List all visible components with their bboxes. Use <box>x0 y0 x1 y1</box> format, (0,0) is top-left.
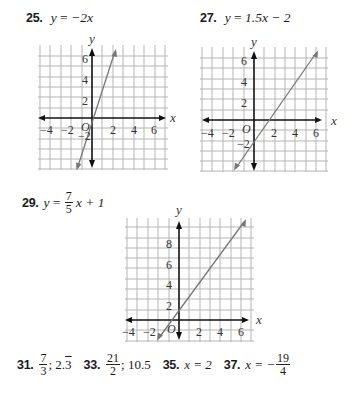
y-axis-arrow-icon <box>176 221 182 229</box>
svg-text:4: 4 <box>217 325 223 339</box>
x-axis-arrow-left-icon <box>125 317 132 323</box>
svg-text:2: 2 <box>196 325 202 339</box>
svg-text:−2: −2 <box>143 325 156 339</box>
svg-text:6: 6 <box>238 325 244 339</box>
answer-35: 35. x = 2 <box>163 357 212 373</box>
graph-29: 8 6 4 2 −4 −2 2 4 6 O y x <box>0 0 352 409</box>
fraction: 194 <box>276 352 290 377</box>
svg-text:O: O <box>167 322 176 336</box>
repeating-digit: 3 <box>65 357 72 373</box>
tick-labels: 8 6 4 2 −4 −2 2 4 6 O <box>122 237 244 339</box>
answer-37: 37. x = − 194 <box>224 352 291 377</box>
svg-text:6: 6 <box>166 258 172 272</box>
x-axis-label: x <box>255 312 262 327</box>
svg-text:8: 8 <box>166 237 172 251</box>
answers-row: 31. 73 ; 2.3 33. 212 ; 10.5 35. x = 2 37… <box>17 352 303 377</box>
fraction: 212 <box>106 352 120 377</box>
grid <box>125 218 254 342</box>
answer-33: 33. 212 ; 10.5 <box>84 352 151 377</box>
y-axis-label: y <box>174 202 182 217</box>
svg-text:4: 4 <box>166 278 172 292</box>
fraction: 73 <box>39 352 47 377</box>
svg-text:2: 2 <box>166 299 172 313</box>
svg-text:−4: −4 <box>122 325 135 339</box>
answer-31: 31. 73 ; 2.3 <box>17 352 72 377</box>
y-axis-arrow-down-icon <box>176 332 182 340</box>
x-axis-arrow-icon <box>242 317 249 323</box>
